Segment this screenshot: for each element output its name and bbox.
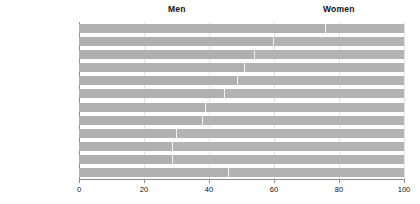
bar-row bbox=[79, 89, 404, 98]
stacked-bar bbox=[79, 103, 404, 112]
stacked-bar bbox=[79, 76, 404, 85]
bar-segment-women bbox=[274, 37, 404, 46]
bar-segment-women bbox=[238, 76, 404, 85]
bar-segment-women bbox=[173, 142, 404, 151]
bar-segment-women bbox=[229, 168, 405, 177]
stacked-bar bbox=[79, 129, 404, 138]
x-axis-tick bbox=[144, 179, 145, 183]
bar-row bbox=[79, 76, 404, 85]
x-axis-tick bbox=[209, 179, 210, 183]
bar-row bbox=[79, 129, 404, 138]
stacked-bar bbox=[79, 37, 404, 46]
bar-segment-men bbox=[79, 142, 173, 151]
bar-segment-women bbox=[225, 89, 404, 98]
x-axis-tick bbox=[339, 179, 340, 183]
plot-area bbox=[79, 22, 404, 179]
bar-row bbox=[79, 103, 404, 112]
bar-segment-women bbox=[203, 116, 405, 125]
stacked-bar-chart: Men Women 020406080100 PhysicsMathematic… bbox=[0, 0, 420, 204]
bar-segment-men bbox=[79, 63, 245, 72]
bar-row bbox=[79, 37, 404, 46]
bar-segment-men bbox=[79, 50, 255, 59]
bar-row bbox=[79, 24, 404, 33]
bar-segment-men bbox=[79, 76, 238, 85]
legend-label-women: Women bbox=[323, 4, 355, 14]
x-axis-tick-label: 40 bbox=[205, 185, 213, 194]
bar-segment-women bbox=[255, 50, 405, 59]
bar-segment-men bbox=[79, 37, 274, 46]
x-axis-tick-label: 100 bbox=[398, 185, 411, 194]
stacked-bar bbox=[79, 63, 404, 72]
x-axis-tick-label: 20 bbox=[140, 185, 148, 194]
x-axis-tick-label: 0 bbox=[77, 185, 81, 194]
x-axis-tick bbox=[404, 179, 405, 183]
stacked-bar bbox=[79, 155, 404, 164]
x-axis-tick-label: 80 bbox=[335, 185, 343, 194]
x-axis-tick-label: 60 bbox=[270, 185, 278, 194]
stacked-bar bbox=[79, 89, 404, 98]
bar-row bbox=[79, 155, 404, 164]
bar-segment-women bbox=[173, 155, 404, 164]
bar-row bbox=[79, 142, 404, 151]
stacked-bar bbox=[79, 24, 404, 33]
stacked-bar bbox=[79, 116, 404, 125]
bar-row bbox=[79, 50, 404, 59]
bar-segment-women bbox=[326, 24, 404, 33]
bar-row bbox=[79, 168, 404, 177]
bar-segment-men bbox=[79, 89, 225, 98]
bar-row bbox=[79, 63, 404, 72]
bar-row bbox=[79, 116, 404, 125]
stacked-bar bbox=[79, 142, 404, 151]
bar-segment-men bbox=[79, 116, 203, 125]
bar-segment-men bbox=[79, 155, 173, 164]
x-axis-tick bbox=[274, 179, 275, 183]
bar-segment-men bbox=[79, 103, 206, 112]
bar-segment-women bbox=[245, 63, 404, 72]
bar-segment-women bbox=[206, 103, 404, 112]
bar-segment-women bbox=[177, 129, 405, 138]
x-axis-line bbox=[79, 179, 404, 180]
stacked-bar bbox=[79, 50, 404, 59]
bar-segment-men bbox=[79, 129, 177, 138]
gridline bbox=[404, 22, 405, 179]
bar-segment-men bbox=[79, 24, 326, 33]
x-axis-tick bbox=[79, 179, 80, 183]
legend-label-men: Men bbox=[168, 4, 186, 14]
stacked-bar bbox=[79, 168, 404, 177]
bar-segment-men bbox=[79, 168, 229, 177]
